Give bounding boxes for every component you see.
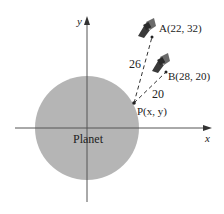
x-axis-arrow-icon bbox=[203, 125, 212, 131]
x-axis-label: x bbox=[204, 132, 210, 144]
y-axis-label: y bbox=[76, 15, 82, 27]
point-B-label: B(28, 20) bbox=[168, 70, 211, 83]
diagram-canvas: x y Planet 26 20 A(22, 32) B(28, 20) P(x… bbox=[0, 0, 224, 214]
point-P bbox=[132, 101, 136, 105]
planet-label: Planet bbox=[73, 132, 104, 146]
segment-PA-length: 26 bbox=[129, 57, 141, 71]
point-A bbox=[151, 36, 154, 39]
point-A-label: A(22, 32) bbox=[159, 22, 202, 35]
y-axis-arrow-icon bbox=[84, 16, 90, 25]
segment-PB-length: 20 bbox=[152, 87, 164, 101]
point-P-label: P(x, y) bbox=[137, 105, 167, 118]
satellite-icon bbox=[138, 18, 156, 38]
